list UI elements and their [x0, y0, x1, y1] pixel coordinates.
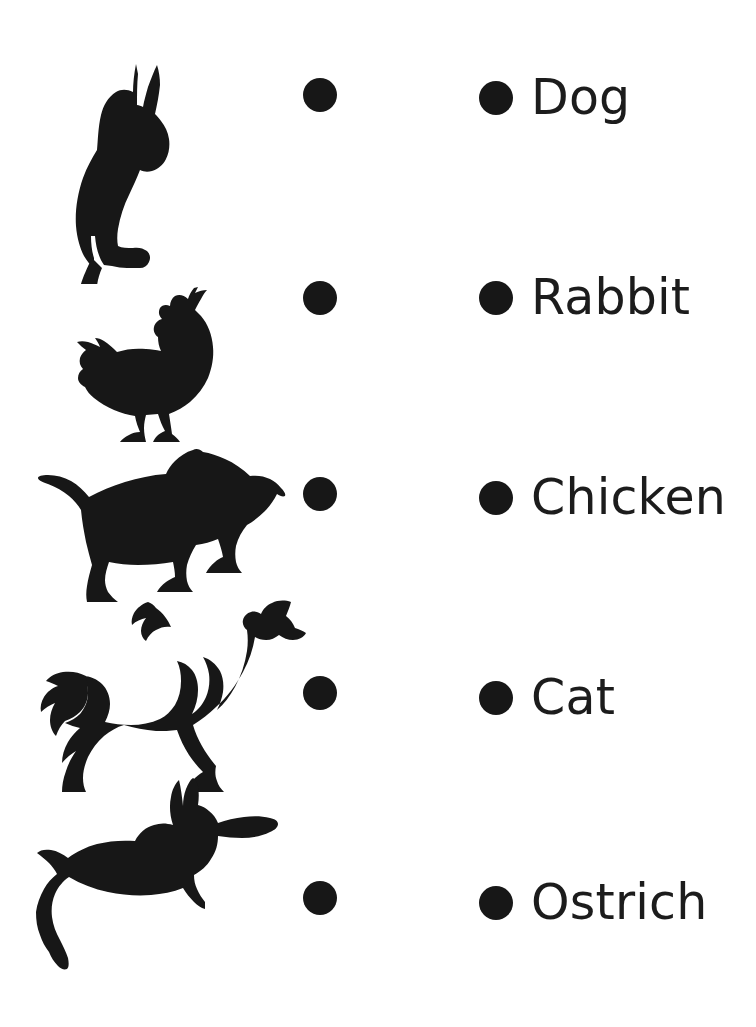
connector-bullet-left-4[interactable] — [303, 676, 337, 710]
cat-sitting-silhouette — [70, 62, 188, 284]
animal-label-rabbit: Rabbit — [531, 273, 690, 322]
label-row-cat[interactable]: Cat — [479, 673, 615, 722]
chicken-standing-silhouette — [74, 286, 222, 442]
label-row-ostrich[interactable]: Ostrich — [479, 878, 707, 927]
connector-bullet-right-4[interactable] — [479, 681, 513, 715]
label-row-dog[interactable]: Dog — [479, 73, 630, 122]
connector-bullet-right-2[interactable] — [479, 281, 513, 315]
connector-bullet-right-5[interactable] — [479, 886, 513, 920]
rabbit-leaping-silhouette — [36, 778, 278, 970]
connector-bullet-left-3[interactable] — [303, 477, 337, 511]
connector-bullet-left-2[interactable] — [303, 281, 337, 315]
dog-running-silhouette — [38, 446, 286, 602]
animal-label-ostrich: Ostrich — [531, 878, 707, 927]
ostrich-running-silhouette — [38, 598, 306, 792]
animal-label-chicken: Chicken — [531, 473, 726, 522]
connector-bullet-left-1[interactable] — [303, 78, 337, 112]
animal-label-cat: Cat — [531, 673, 615, 722]
connector-bullet-right-1[interactable] — [479, 81, 513, 115]
label-row-chicken[interactable]: Chicken — [479, 473, 726, 522]
animal-label-dog: Dog — [531, 73, 630, 122]
connector-bullet-right-3[interactable] — [479, 481, 513, 515]
label-row-rabbit[interactable]: Rabbit — [479, 273, 690, 322]
matching-worksheet: Dog Rabbit Chicken Cat Ostrich — [0, 0, 756, 1027]
connector-bullet-left-5[interactable] — [303, 881, 337, 915]
